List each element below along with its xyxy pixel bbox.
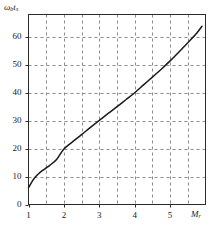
y-tick-label: 20 (0, 144, 22, 153)
chart-figure: ωbts Mr 010203040506012345 (0, 0, 218, 232)
x-tick-label: 3 (91, 211, 107, 220)
plot-frame (29, 15, 206, 205)
tick-marks (26, 38, 171, 208)
x-tick-label: 4 (127, 211, 143, 220)
x-tick-label: 1 (21, 211, 37, 220)
x-tick-label: 2 (56, 211, 72, 220)
y-tick-label: 0 (0, 200, 22, 209)
y-tick-label: 10 (0, 172, 22, 181)
data-curve (29, 26, 202, 188)
y-tick-label: 60 (0, 32, 22, 41)
x-tick-label: 5 (162, 211, 178, 220)
plot-area (0, 0, 218, 232)
gridlines (29, 15, 206, 205)
y-tick-label: 40 (0, 88, 22, 97)
y-tick-label: 30 (0, 116, 22, 125)
y-tick-label: 50 (0, 60, 22, 69)
